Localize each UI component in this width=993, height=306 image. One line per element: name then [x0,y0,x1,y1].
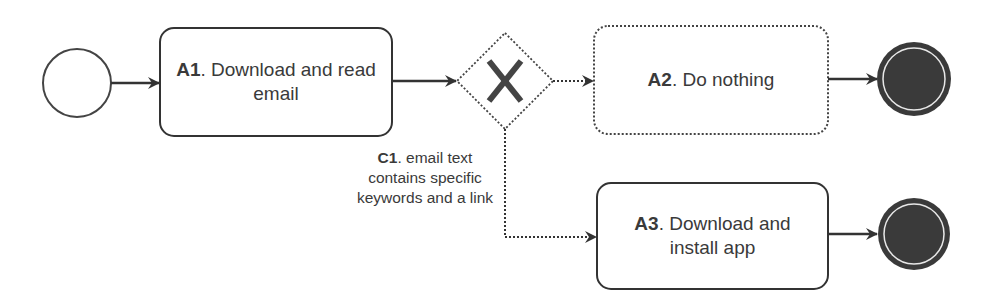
task-a1-text-line2: email [253,82,298,106]
task-a3-label: A3. Download and install app [597,183,828,289]
condition-c1-label: C1. email text contains specific keyword… [345,148,505,208]
condition-line3: keywords and a link [345,188,505,208]
flow-gateway-to-a3 [505,129,596,237]
task-a1-text: . Download and read [200,59,375,80]
condition-c1-code: C1 [378,149,398,166]
task-a2-text: . Do nothing [672,69,774,90]
task-a3-text: . Download and [659,213,791,234]
task-a1-code: A1 [176,59,200,80]
task-a2-code: A2 [648,69,672,90]
condition-line2: contains specific [345,168,505,188]
end-event-2[interactable] [878,198,950,270]
task-a3-code: A3 [634,213,658,234]
end-event-1[interactable] [877,42,951,116]
start-event[interactable] [43,49,111,117]
task-a2-label: A2. Do nothing [594,26,828,134]
task-a1-label: A1. Download and read email [160,28,392,136]
condition-line1: . email text [397,149,472,166]
task-a3-text-line2: install app [670,236,756,260]
